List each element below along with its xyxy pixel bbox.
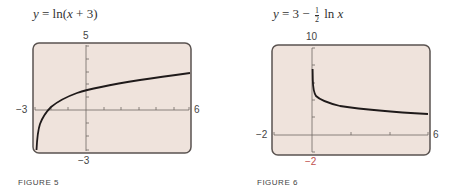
- figure-6-plot: [0, 0, 458, 192]
- figure-6-caption: FIGURE 6: [257, 178, 298, 187]
- figure-6: y = 3 − 12 ln x 10 −2 −2 6 FIGURE 6: [0, 0, 458, 192]
